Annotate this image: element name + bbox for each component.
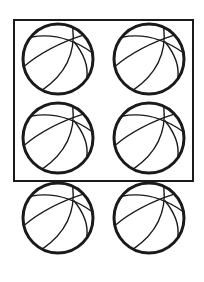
- basketball-icon: [114, 24, 184, 94]
- basketball-icon: [23, 103, 93, 173]
- basketballs-group: [23, 24, 184, 253]
- basketball-icon: [114, 183, 184, 253]
- basketball-icon: [114, 103, 184, 173]
- basketball-icon: [23, 183, 93, 253]
- figure-canvas: [0, 0, 204, 282]
- basketball-icon: [23, 24, 93, 94]
